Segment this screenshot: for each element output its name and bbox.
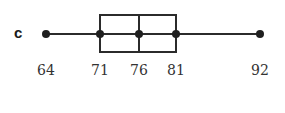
- point-max: [256, 30, 264, 38]
- tick-label-max: 92: [245, 62, 275, 78]
- tick-label-q3: 81: [161, 62, 191, 78]
- point-median: [135, 30, 143, 38]
- point-q1: [96, 30, 104, 38]
- tick-label-q1: 71: [85, 62, 115, 78]
- point-q3: [172, 30, 180, 38]
- point-min: [42, 30, 50, 38]
- tick-label-min: 64: [31, 62, 61, 78]
- box-plot: [0, 0, 285, 113]
- tick-label-median: 76: [124, 62, 154, 78]
